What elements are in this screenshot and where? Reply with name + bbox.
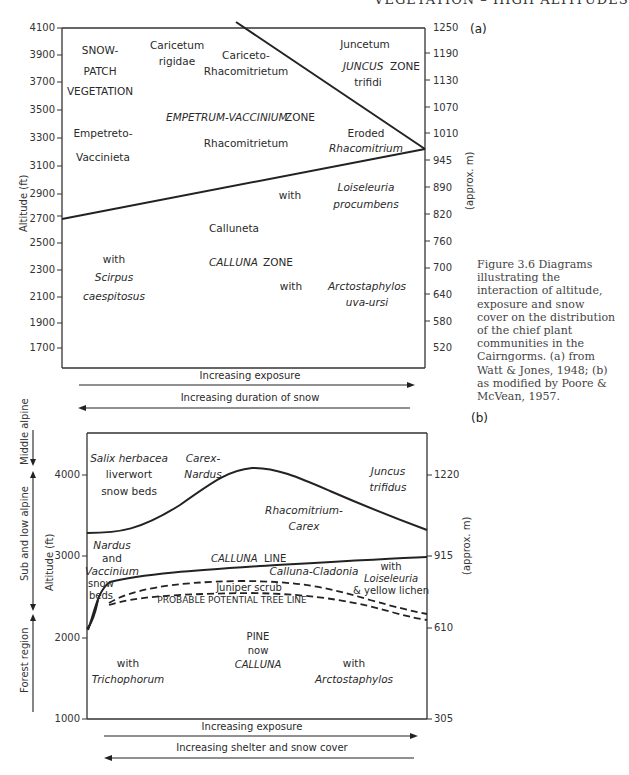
label: Scirpus — [95, 272, 133, 283]
label: Rhacomitrietum — [204, 138, 289, 149]
panel-a-juncus-boundary — [236, 22, 425, 149]
label: ZONE — [390, 61, 420, 72]
label: ZONE — [285, 112, 315, 123]
label: Nardus — [93, 540, 130, 551]
label: with — [279, 190, 301, 201]
label: Arctostaphylos — [315, 674, 393, 685]
label: Empetreto- — [73, 128, 132, 139]
label: JUNCUS — [343, 61, 383, 72]
label: with — [343, 658, 365, 669]
region-sub-low-alpine: Sub and low alpine — [19, 486, 30, 581]
region-forest: Forest region — [19, 628, 30, 694]
label: Juncus — [371, 466, 405, 477]
label: trifidi — [354, 77, 382, 88]
tick-m: 820 — [433, 210, 452, 220]
tick-m: 945 — [433, 156, 452, 166]
tick-ft: 1900 — [30, 318, 55, 328]
label: ZONE — [263, 257, 293, 268]
panel-b-label: (b) — [471, 411, 488, 425]
tick-m: 760 — [433, 237, 452, 247]
tick-ft: 3300 — [30, 133, 55, 143]
label: Nardus — [184, 469, 221, 480]
tick-ft: 2700 — [30, 214, 55, 224]
label: rigidae — [159, 56, 195, 67]
label: trifidus — [370, 482, 407, 493]
label: snow — [88, 579, 114, 589]
label: with — [280, 281, 302, 292]
label: Rhacomitrium- — [265, 505, 343, 516]
label: now — [248, 646, 269, 656]
label: Salix herbacea — [90, 453, 168, 464]
label: SNOW- — [82, 45, 119, 56]
tick-ft: 2300 — [30, 265, 55, 275]
label: beds — [89, 591, 113, 601]
label: snow beds — [101, 486, 157, 497]
panel-a-x-arrow-snow: Increasing duration of snow — [181, 393, 320, 403]
label: LINE — [264, 554, 286, 564]
panel-b-x-arrow-exposure: Increasing exposure — [202, 722, 303, 732]
label: Calluna-Cladonia — [270, 566, 359, 577]
panel-b-ylabel: Altitude (ft) — [44, 534, 55, 591]
label: Loiseleuria — [364, 574, 418, 584]
tick-m: 1070 — [433, 103, 458, 113]
label: & yellow lichen — [353, 586, 429, 596]
label: Carex — [289, 521, 320, 532]
label: CALLUNA — [211, 554, 258, 564]
label: Rhacomitrietum — [204, 66, 289, 77]
label: Arctostaphylos — [328, 281, 406, 292]
panel-a-label: (a) — [470, 22, 487, 36]
region-middle-alpine: Middle alpine — [19, 398, 30, 465]
tick-m: 1220 — [434, 470, 459, 480]
label: PINE — [247, 632, 270, 642]
tick-ft: 3500 — [30, 105, 55, 115]
tick-m: 640 — [433, 290, 452, 300]
label: Juncetum — [340, 39, 390, 50]
tick-ft: 4000 — [55, 470, 80, 480]
panel-a-mlabel: (approx. m) — [464, 152, 475, 210]
tick-m: 610 — [434, 623, 453, 633]
label: VEGETATION — [67, 86, 133, 97]
label: Juniper scrub — [216, 583, 282, 593]
label: Vaccinieta — [76, 152, 130, 163]
panel-b-x-arrow-shelter: Increasing shelter and snow cover — [176, 743, 347, 753]
label: Loiseleuria — [338, 182, 395, 193]
label: Caricetum — [150, 40, 204, 51]
label: Rhacomitrium — [329, 143, 403, 154]
label: PROBABLE POTENTIAL TREE LINE — [157, 596, 307, 605]
tick-ft: 1700 — [30, 343, 55, 353]
tick-ft: 3000 — [55, 551, 80, 561]
tick-ft: 3100 — [30, 161, 55, 171]
label: CALLUNA — [235, 660, 282, 670]
label: EMPETRUM-VACCINIUM — [166, 112, 288, 123]
label: with — [380, 562, 401, 572]
tick-m: 1010 — [433, 129, 458, 139]
label: Trichophorum — [92, 674, 165, 685]
label: Carex- — [186, 453, 221, 464]
label: CALLUNA — [209, 257, 258, 268]
label: and — [102, 553, 122, 564]
label: Vaccinium — [85, 566, 139, 577]
label: PATCH — [83, 66, 116, 77]
tick-m: 915 — [434, 551, 453, 561]
label: uva-ursi — [346, 297, 388, 308]
tick-m: 890 — [433, 183, 452, 193]
tick-m: 1250 — [433, 23, 458, 33]
label: with — [103, 254, 125, 265]
tick-m: 1130 — [433, 76, 458, 86]
tick-ft: 4100 — [30, 23, 55, 33]
tick-ft: 1000 — [55, 714, 80, 724]
panel-a-ylabel: Altitude (ft) — [18, 175, 29, 232]
tick-m: 520 — [433, 343, 452, 353]
label: procumbens — [333, 199, 398, 210]
figure-caption: Figure 3.6 Diagrams illustrating the int… — [477, 258, 617, 403]
label: Cariceto- — [222, 50, 270, 61]
panel-b-mlabel: (approx. m) — [461, 517, 472, 575]
tick-ft: 3900 — [30, 50, 55, 60]
tick-ft: 2000 — [55, 633, 80, 643]
label: Calluneta — [209, 223, 259, 234]
tick-m: 700 — [433, 263, 452, 273]
tick-ft: 2900 — [30, 189, 55, 199]
label: Eroded — [348, 128, 385, 139]
label: liverwort — [106, 469, 152, 480]
label: caespitosus — [83, 291, 145, 302]
